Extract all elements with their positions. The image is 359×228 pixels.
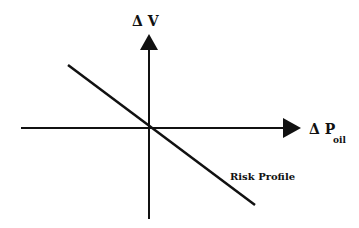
x-axis-label-subscript: oil [333, 135, 346, 145]
y-axis-arrowhead-icon [140, 34, 158, 50]
risk-profile-line [68, 65, 255, 205]
x-axis-label: Δ P [309, 121, 336, 137]
x-axis-arrowhead-icon [283, 118, 301, 138]
y-axis-label: Δ V [132, 13, 160, 29]
risk-profile-label: Risk Profile [230, 171, 295, 182]
risk-profile-diagram: Δ V Δ P oil Risk Profile [0, 0, 359, 228]
